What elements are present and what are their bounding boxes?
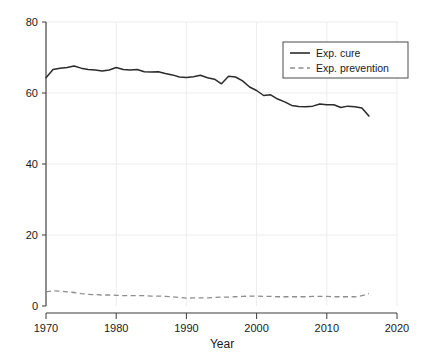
x-axis-label: Year — [210, 337, 234, 351]
y-tick-label: 40 — [26, 158, 38, 170]
line-chart: 020406080 197019801990200020102020 Exp. … — [0, 0, 425, 363]
x-tick-label: 1970 — [34, 322, 58, 334]
y-tick-label: 80 — [26, 16, 38, 28]
x-tick-label: 1990 — [174, 322, 198, 334]
chart-figure: 020406080 197019801990200020102020 Exp. … — [0, 0, 425, 363]
x-tick-label: 2000 — [244, 322, 268, 334]
x-tick-label: 2020 — [385, 322, 409, 334]
y-tick-label: 20 — [26, 229, 38, 241]
legend-label-exp-prevention: Exp. prevention — [316, 62, 389, 74]
x-tick-label: 1980 — [104, 322, 128, 334]
y-tick-label: 0 — [32, 300, 38, 312]
series-line-exp-prevention — [46, 291, 369, 298]
data-series-group — [46, 66, 369, 298]
y-tick-label: 60 — [26, 87, 38, 99]
y-axis-ticks: 020406080 — [26, 16, 46, 312]
chart-legend: Exp. cureExp. prevention — [283, 42, 408, 78]
legend-label-exp-cure: Exp. cure — [316, 47, 361, 59]
x-tick-label: 2010 — [315, 322, 339, 334]
x-axis-ticks: 197019801990200020102020 — [34, 313, 409, 334]
